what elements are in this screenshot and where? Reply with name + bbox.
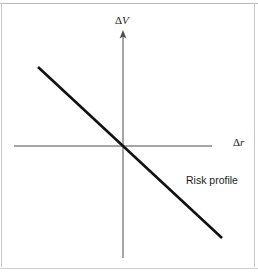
y-axis-label-variable: V xyxy=(122,14,129,26)
chart-plot-area xyxy=(0,0,258,273)
risk-profile-annotation: Risk profile xyxy=(186,175,238,186)
risk-profile-line xyxy=(38,67,222,238)
x-axis-label-variable: r xyxy=(240,136,244,148)
risk-profile-figure: ΔV Δr Risk profile xyxy=(0,0,258,273)
y-axis-label: ΔV xyxy=(115,15,129,26)
x-axis-label: Δr xyxy=(233,137,244,148)
